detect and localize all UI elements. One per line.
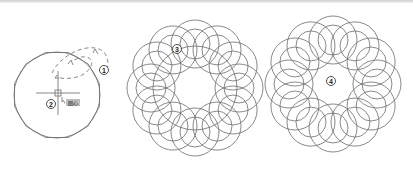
- loop-outer: [331, 22, 379, 70]
- step-label-4: 4: [327, 77, 336, 86]
- loop-outer: [209, 86, 257, 134]
- step-label-1: 1: [100, 66, 109, 75]
- loop-inner: [202, 35, 232, 65]
- loop-outer: [133, 86, 181, 134]
- loop-inner: [318, 113, 348, 143]
- loop-outer: [353, 60, 401, 108]
- loop-inner: [218, 51, 248, 81]
- loop-outer: [193, 26, 241, 74]
- loop-outer: [149, 102, 197, 150]
- loop-inner: [356, 47, 386, 77]
- loop-outer: [309, 16, 357, 64]
- snap-tooltip-text: 圆心: [68, 100, 78, 107]
- loop-outer: [171, 108, 219, 156]
- panel-circle-polygon: 圆心: [14, 48, 108, 138]
- loop-inner: [158, 111, 188, 141]
- step-number: 1: [102, 67, 106, 74]
- loop-inner: [280, 47, 310, 77]
- loop-inner: [202, 111, 232, 141]
- loop-outer: [193, 102, 241, 150]
- step-label-2: 2: [47, 100, 56, 109]
- dashed-arc-inner: [60, 57, 92, 79]
- loop-inner: [340, 107, 370, 137]
- pointer-icon: [62, 97, 65, 104]
- loop-outer: [287, 98, 335, 146]
- snap-tooltip: 圆心: [62, 97, 80, 107]
- loop-inner: [142, 95, 172, 125]
- drawing-canvas: 圆心 1234: [0, 0, 413, 169]
- crosshair-cursor: [36, 71, 80, 115]
- loop-inner: [274, 69, 304, 99]
- loop-inner: [340, 31, 370, 61]
- loop-outer: [347, 82, 395, 130]
- loop-outer: [309, 104, 357, 152]
- loop-inner: [136, 73, 166, 103]
- loop-inner: [296, 31, 326, 61]
- loop-inner: [224, 73, 254, 103]
- loop-outer: [287, 22, 335, 70]
- loop-outer: [331, 98, 379, 146]
- loop-inner: [180, 117, 210, 147]
- loop-outer: [171, 20, 219, 68]
- loop-inner: [218, 95, 248, 125]
- loop-outer: [127, 64, 175, 112]
- step-number: 4: [329, 78, 333, 85]
- arrow-head: [55, 75, 59, 78]
- loop-inner: [318, 25, 348, 55]
- loop-inner: [296, 107, 326, 137]
- loop-inner: [362, 69, 392, 99]
- loop-inner: [180, 29, 210, 59]
- loop-outer: [271, 38, 319, 86]
- loop-outer: [209, 42, 257, 90]
- loop-outer: [271, 82, 319, 130]
- step-number: 2: [49, 101, 53, 108]
- panel-ring-with-guide: [127, 20, 263, 156]
- step-label-3: 3: [173, 45, 182, 54]
- loop-inner: [142, 51, 172, 81]
- loop-inner: [356, 91, 386, 121]
- loop-outer: [215, 64, 263, 112]
- step-number: 3: [175, 46, 179, 53]
- loop-outer: [347, 38, 395, 86]
- loop-outer: [265, 60, 313, 108]
- loop-inner: [280, 91, 310, 121]
